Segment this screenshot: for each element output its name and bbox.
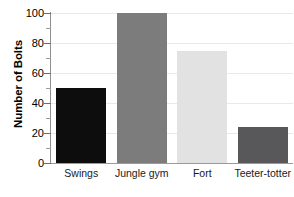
x-tick-label: Swings xyxy=(51,167,112,179)
y-tick-label: 100 xyxy=(14,7,44,19)
x-axis-tick-labels: SwingsJungle gymFortTeeter-totter xyxy=(51,167,293,187)
axis-baseline xyxy=(51,163,293,164)
y-tick-label: 0 xyxy=(14,157,44,169)
bar-chart: Number of Bolts 020406080100 SwingsJungl… xyxy=(0,0,294,197)
y-tick-minor xyxy=(46,88,51,89)
x-tick-label: Fort xyxy=(172,167,233,179)
y-tick-minor xyxy=(46,118,51,119)
gridline xyxy=(51,43,293,44)
y-tick-label: 40 xyxy=(14,97,44,109)
x-tick-label: Jungle gym xyxy=(112,167,173,179)
y-tick-major xyxy=(44,163,51,164)
y-tick-major xyxy=(44,133,51,134)
y-tick-major xyxy=(44,73,51,74)
y-axis-tick-labels: 020406080100 xyxy=(14,0,44,197)
y-tick-label: 80 xyxy=(14,37,44,49)
y-tick-minor xyxy=(46,148,51,149)
y-tick-minor xyxy=(46,28,51,29)
bar xyxy=(56,88,106,163)
y-tick-label: 60 xyxy=(14,67,44,79)
gridline xyxy=(51,73,293,74)
plot-area xyxy=(51,13,293,163)
y-tick-label: 20 xyxy=(14,127,44,139)
bar xyxy=(238,127,288,163)
gridline xyxy=(51,13,293,14)
bar xyxy=(177,51,227,164)
x-tick-label: Teeter-totter xyxy=(233,167,294,179)
y-tick-major xyxy=(44,13,51,14)
y-tick-major xyxy=(44,103,51,104)
y-tick-minor xyxy=(46,58,51,59)
y-tick-major xyxy=(44,43,51,44)
bar xyxy=(117,13,167,163)
